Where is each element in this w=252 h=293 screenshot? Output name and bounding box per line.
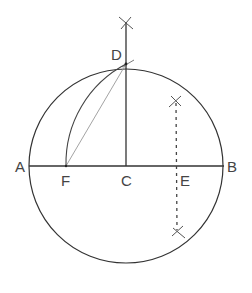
point-f-dot [65,165,67,167]
label-d: D [111,46,122,63]
point-d-dot [125,63,128,66]
label-e: E [180,172,190,189]
geometry-diagram: A B C D E F [0,0,252,293]
label-f: F [61,172,70,189]
cross-mark-upper-right [169,96,181,107]
diagram-svg: A B C D E F [0,0,252,293]
label-c: C [121,172,132,189]
label-a: A [15,158,25,175]
bisector-dashed [176,103,177,230]
label-b: B [227,158,237,175]
cross-mark-lower-right [172,226,185,238]
d-tick [122,60,134,67]
chord-fd [66,64,126,166]
